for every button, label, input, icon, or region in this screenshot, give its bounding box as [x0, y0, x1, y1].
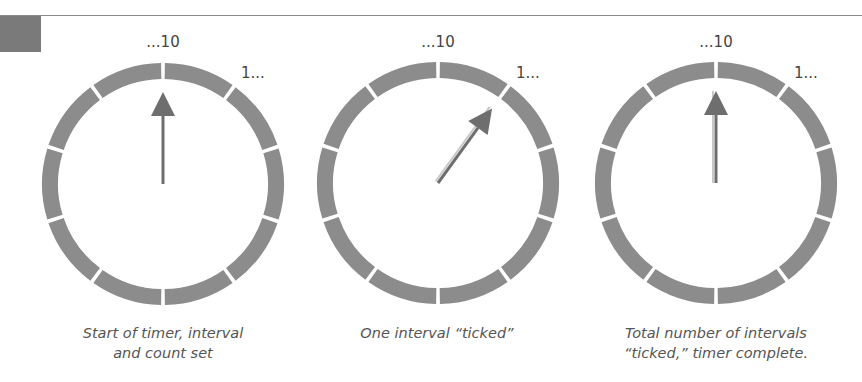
- caption-line: One interval “ticked”: [307, 323, 567, 343]
- ring-segment: [816, 147, 837, 218]
- ring-segment: [324, 217, 375, 280]
- ring-segment: [440, 62, 508, 97]
- ring-segment: [93, 63, 161, 98]
- ring-segment: [595, 147, 616, 218]
- start-label: 1...: [241, 64, 265, 82]
- ring-segment: [49, 218, 100, 281]
- ring-segment: [779, 217, 830, 280]
- ring-segment: [263, 148, 284, 219]
- ring-segment: [718, 62, 786, 97]
- caption-dial-one-tick: One interval “ticked”: [307, 323, 567, 343]
- caption-dial-complete: Total number of intervals “ticked,” time…: [586, 323, 846, 363]
- ring-segment: [538, 147, 559, 218]
- ring-segment: [602, 86, 653, 149]
- ring-segment: [317, 147, 338, 218]
- dial-start: ...101...: [42, 33, 284, 305]
- pointer-arrowhead: [151, 92, 175, 116]
- ring-segment: [324, 86, 375, 149]
- caption-line: “ticked,” timer complete.: [586, 343, 846, 363]
- caption-dial-start: Start of timer, interval and count set: [33, 323, 293, 363]
- caption-line: Total number of intervals: [586, 323, 846, 343]
- dial-one-tick: ...101...: [317, 33, 559, 304]
- ring-segment: [501, 86, 552, 149]
- caption-line: and count set: [33, 343, 293, 363]
- dial-complete: ...101...: [595, 33, 837, 304]
- ring-segment: [368, 62, 436, 97]
- ring-segment: [779, 86, 830, 149]
- ring-segment: [165, 63, 233, 98]
- ring-segment: [646, 269, 714, 304]
- start-label: 1...: [516, 64, 540, 82]
- pointer-arrowhead: [704, 91, 728, 115]
- ring-segment: [93, 270, 161, 305]
- ring-segment: [49, 87, 100, 150]
- end-label: ...10: [146, 33, 179, 51]
- pointer-shaft: [438, 128, 478, 183]
- ring-segment: [602, 217, 653, 280]
- ring-segment: [501, 217, 552, 280]
- ring-segment: [42, 148, 63, 219]
- end-label: ...10: [421, 33, 454, 51]
- ring-segment: [646, 62, 714, 97]
- ring-segment: [226, 87, 277, 150]
- ring-segment: [718, 269, 786, 304]
- ring-segment: [165, 270, 233, 305]
- ring-segment: [440, 269, 508, 304]
- ring-segment: [226, 218, 277, 281]
- ring-segment: [368, 269, 436, 304]
- start-label: 1...: [794, 64, 818, 82]
- end-label: ...10: [699, 33, 732, 51]
- caption-line: Start of timer, interval: [33, 323, 293, 343]
